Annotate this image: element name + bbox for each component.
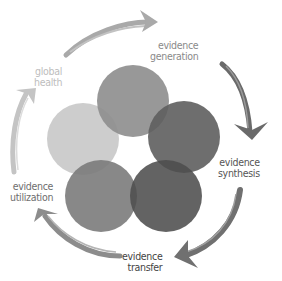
label-global-health: global health <box>34 66 62 88</box>
label-evidence-generation: evidence generation <box>150 40 198 62</box>
label-evidence-utilization: evidence utilization <box>10 181 53 203</box>
label-line2: transfer <box>122 262 162 273</box>
label-line2: utilization <box>10 192 53 203</box>
arrow-global-health-to-generation <box>66 10 158 55</box>
evidence-cycle-diagram: evidence generation evidence synthesis e… <box>0 0 282 281</box>
diagram-graphics <box>0 0 282 281</box>
label-evidence-synthesis: evidence synthesis <box>218 157 260 179</box>
circle-utilization <box>65 160 137 232</box>
arrow-utilization-to-global-health <box>13 88 36 172</box>
label-line2: health <box>34 77 62 88</box>
circle-transfer <box>130 160 202 232</box>
label-evidence-transfer: evidence transfer <box>122 251 162 273</box>
label-line2: generation <box>150 51 198 62</box>
arrow-generation-to-synthesis <box>222 64 268 140</box>
label-line2: synthesis <box>218 168 260 179</box>
